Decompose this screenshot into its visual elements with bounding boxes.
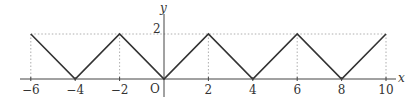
y-tick-2: 2 (153, 22, 161, 36)
x-tick-label: 10 (378, 83, 393, 97)
x-axis-label: x (398, 71, 405, 85)
dotted-guides (31, 34, 386, 79)
origin-label: O (150, 82, 160, 96)
x-tick-label: 8 (338, 83, 346, 97)
x-tick-label: −6 (22, 83, 40, 97)
x-tick-label: 2 (205, 83, 213, 97)
x-tick-label: 6 (293, 83, 301, 97)
x-tick-label: 4 (249, 83, 257, 97)
x-tick-label: −2 (111, 83, 129, 97)
x-tick-label: −4 (66, 83, 84, 97)
triangle-wave-chart: −6−4−2246810 x y O 2 (0, 0, 416, 104)
y-axis-label: y (159, 1, 167, 15)
tick-labels: −6−4−2246810 (22, 77, 394, 97)
